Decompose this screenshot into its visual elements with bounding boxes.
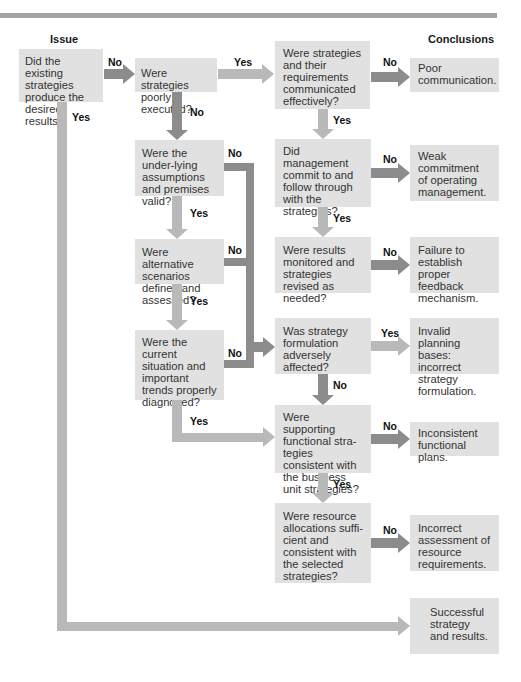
arrow-q2-no-shaft xyxy=(172,92,182,130)
label-q6-yes: Yes xyxy=(190,207,208,219)
question-assumptions-valid: Were the under-lying assumptions and pre… xyxy=(135,140,224,196)
question-communicated: Were strategies and their requirements c… xyxy=(275,41,370,109)
arrow-q3-yes-shaft xyxy=(318,109,328,129)
label-q2-yes: Yes xyxy=(234,56,252,68)
arrow-q4-yes-head xyxy=(312,227,334,237)
arrow-q7-yes-shaft xyxy=(172,284,182,320)
arrow-q1-yes-shaft xyxy=(57,622,398,631)
label-q6-no: No xyxy=(228,147,242,159)
question-strategy-formulation: Was strategy formulation adversely affec… xyxy=(275,318,371,374)
question-functional-strategies: Were supporting functional stra-tegies c… xyxy=(275,405,371,473)
arrow-q2-yes-shaft xyxy=(218,69,262,79)
arrow-q8-yes-shaft xyxy=(172,433,263,442)
arrow-q1-no-head xyxy=(123,64,135,84)
label-q2-no: No xyxy=(190,106,204,118)
arrow-q2-no-head xyxy=(166,130,188,140)
arrow-q9-yes-shaft xyxy=(371,341,398,351)
label-q3-yes: Yes xyxy=(333,114,351,126)
conclusions-header: Conclusions xyxy=(428,33,494,45)
label-q8-yes: Yes xyxy=(190,415,208,427)
arrow-q6-yes-shaft xyxy=(172,196,182,229)
top-rule xyxy=(0,13,497,18)
arrow-q10-no-shaft xyxy=(371,434,398,444)
arrow-q3-yes-head xyxy=(312,129,334,139)
arrow-q5-no-shaft xyxy=(371,260,398,270)
arrow-q4-yes-shaft xyxy=(318,207,328,227)
arrow-q3-no-shaft xyxy=(371,72,398,82)
arrow-q4-no-shaft xyxy=(371,168,398,178)
arrow-q5-no-head xyxy=(398,255,410,275)
arrow-bus-shaft xyxy=(246,342,263,352)
question-alternative-scenarios: Were alternative scenarios defined and a… xyxy=(135,239,224,284)
conclusion-invalid-planning: Invalid planning bases: incorrect strate… xyxy=(410,318,499,374)
label-q9-yes: Yes xyxy=(381,327,399,339)
question-results-monitored: Were results monitored and strategies re… xyxy=(275,237,371,293)
arrow-q9-yes-head xyxy=(398,336,410,356)
arrow-q11-no-shaft xyxy=(371,538,398,548)
arrow-q10-yes-head xyxy=(312,493,334,503)
arrow-q10-no-head xyxy=(398,429,410,449)
label-q10-yes: Yes xyxy=(333,478,351,490)
label-q9-no: No xyxy=(333,379,347,391)
arrow-q1-yes-vertical xyxy=(57,102,67,631)
label-q4-yes: Yes xyxy=(333,212,351,224)
arrow-q3-no-head xyxy=(398,67,410,87)
question-current-situation: Were the current situation and important… xyxy=(135,330,224,400)
label-q1-no: No xyxy=(108,56,122,68)
connector-vertical-bus xyxy=(246,163,254,368)
conclusion-weak-commitment: Weak commitment of operating management. xyxy=(410,145,499,201)
label-q10-no: No xyxy=(383,420,397,432)
issue-header: Issue xyxy=(50,33,78,45)
arrow-q1-no-shaft xyxy=(104,69,123,79)
arrow-q9-no-head xyxy=(312,395,334,405)
arrow-q8-yes-head xyxy=(263,427,275,447)
label-q3-no: No xyxy=(383,56,397,68)
conclusion-feedback-mechanism: Failure to establish proper feedback mec… xyxy=(410,237,499,293)
question-resource-allocations: Were resource allocations suffi-cient an… xyxy=(275,503,371,583)
arrow-q4-no-head xyxy=(398,163,410,183)
conclusion-inconsistent-plans: Inconsistent functional plans. xyxy=(410,422,499,456)
question-existing-strategies: Did the existing strategies produce the … xyxy=(19,49,103,102)
arrow-q10-yes-shaft xyxy=(318,473,328,493)
arrow-q9-no-shaft xyxy=(318,374,328,395)
arrow-q2-yes-head xyxy=(262,64,274,84)
label-q7-yes: Yes xyxy=(190,295,208,307)
label-q11-no: No xyxy=(383,524,397,536)
arrow-q7-yes-head xyxy=(166,320,188,330)
conclusion-poor-communication: Poor communication. xyxy=(410,58,499,92)
question-poorly-executed: Were strategies poorly executed? xyxy=(135,58,217,92)
label-q7-no: No xyxy=(228,244,242,256)
conclusion-successful-strategy: Successful strategy and results. xyxy=(410,598,499,654)
label-q5-no: No xyxy=(383,246,397,258)
arrow-q6-yes-head xyxy=(166,229,188,239)
arrow-q1-yes-head xyxy=(398,616,410,636)
label-q8-no: No xyxy=(228,347,242,359)
arrow-q11-no-head xyxy=(398,533,410,553)
label-q1-yes: Yes xyxy=(72,111,90,123)
question-management-commit: Did management commit to and follow thro… xyxy=(275,139,371,207)
conclusion-resource-requirements: Incorrect assessment of resource require… xyxy=(410,515,499,571)
label-q4-no: No xyxy=(383,153,397,165)
arrow-bus-head xyxy=(263,337,275,357)
